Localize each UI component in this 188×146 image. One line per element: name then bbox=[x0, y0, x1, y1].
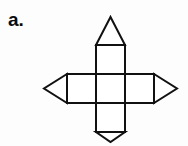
right-triangle bbox=[154, 74, 177, 103]
net-figure bbox=[0, 0, 188, 146]
center-square bbox=[96, 74, 125, 103]
net-diagram-svg bbox=[0, 0, 188, 146]
square-group bbox=[67, 45, 154, 132]
top-triangle bbox=[96, 17, 125, 45]
left-triangle bbox=[44, 74, 67, 103]
top-square bbox=[96, 45, 125, 74]
bottom-square bbox=[96, 103, 125, 132]
figure-page: a. bbox=[0, 0, 188, 146]
bottom-triangle bbox=[96, 132, 125, 142]
right-square bbox=[125, 74, 154, 103]
left-square bbox=[67, 74, 96, 103]
